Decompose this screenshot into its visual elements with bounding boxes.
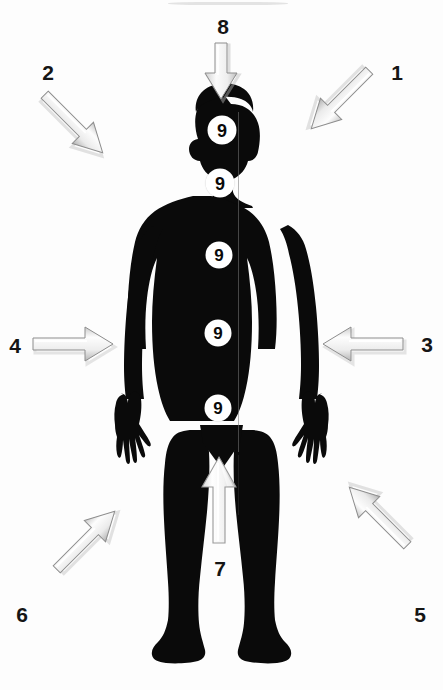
arrow-left-to-right-flank — [322, 322, 406, 366]
body-point-neck[interactable]: 9 — [206, 169, 235, 198]
label-8: 8 — [208, 16, 238, 37]
label-2: 2 — [33, 62, 63, 83]
figure-canvas: 9 9 9 9 9 8 2 1 4 3 7 6 5 — [0, 0, 443, 690]
scan-seam-artifact — [238, 112, 239, 452]
label-4: 4 — [0, 335, 30, 356]
label-3: 3 — [412, 334, 442, 355]
body-point-chest[interactable]: 9 — [206, 242, 233, 269]
body-point-label: 9 — [214, 247, 223, 264]
arrow-down-to-head — [205, 42, 239, 104]
arrow-up-to-pelvis — [197, 455, 241, 547]
arrow-right-to-left-flank — [32, 322, 116, 366]
scan-speckle — [168, 2, 288, 5]
body-point-abdomen[interactable]: 9 — [205, 320, 232, 347]
label-1: 1 — [382, 62, 412, 83]
body-point-head[interactable]: 9 — [208, 116, 237, 145]
body-point-pelvis[interactable]: 9 — [205, 395, 232, 422]
label-7: 7 — [205, 558, 235, 579]
body-point-label: 9 — [215, 174, 225, 192]
label-5: 5 — [405, 604, 435, 625]
label-6: 6 — [7, 604, 37, 625]
body-point-label: 9 — [217, 121, 227, 139]
body-point-label: 9 — [213, 325, 222, 342]
body-point-label: 9 — [213, 400, 222, 417]
